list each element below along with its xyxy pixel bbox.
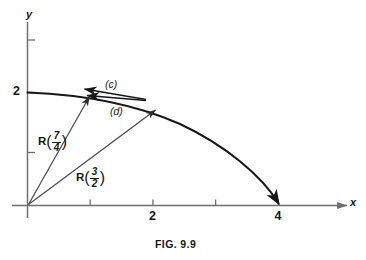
annotation-label-c: (c) [105, 79, 117, 90]
x-axis-label: x [350, 197, 356, 208]
vector-r-3-2-arrow [29, 110, 156, 205]
vector-label-r-3-2-name: R [76, 172, 84, 184]
x-tick-label-2: 2 [149, 210, 156, 223]
vector-label-r-3-2: R(32) [76, 167, 105, 189]
x-tick-label-4: 4 [275, 210, 282, 223]
x-axis-ticks [90, 200, 278, 206]
vector-label-r-7-4-close-paren: ) [62, 135, 67, 149]
vector-label-r-7-4: R(74) [38, 131, 67, 153]
vector-label-r-3-2-close-paren: ) [100, 171, 105, 185]
vector-label-r-3-2-open-paren: ( [84, 171, 89, 185]
figure-caption: FIG. 9.9 [155, 239, 196, 250]
y-axis-label: y [26, 9, 32, 20]
y-axis-ticks [28, 40, 36, 153]
figure-container: y x 2 2 4 (c) (d) R(74) R(32) FIG. 9.9 [0, 0, 366, 260]
y-tick-label-2: 2 [13, 85, 20, 98]
vector-label-r-7-4-open-paren: ( [46, 135, 51, 149]
annotation-label-d: (d) [110, 106, 123, 117]
vector-label-r-7-4-fraction: 74 [52, 131, 61, 153]
vector-label-r-7-4-name: R [38, 136, 46, 148]
vector-label-r-3-2-fraction: 32 [90, 167, 99, 189]
